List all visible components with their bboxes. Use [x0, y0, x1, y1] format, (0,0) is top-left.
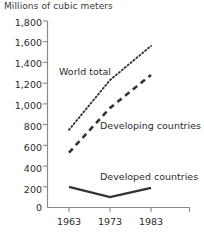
series-line-world-total — [69, 46, 151, 130]
series-developed-countries — [69, 187, 151, 197]
y-axis-ticks — [43, 21, 48, 187]
x-axis-ticks — [69, 208, 190, 213]
series-line-developed-countries — [69, 187, 151, 197]
chart-page: Millions of cubic meters 1,800 1,600 1,4… — [0, 0, 204, 238]
chart-plot-area — [0, 0, 204, 238]
axis-lines — [47, 21, 190, 208]
series-world-total — [69, 46, 151, 130]
